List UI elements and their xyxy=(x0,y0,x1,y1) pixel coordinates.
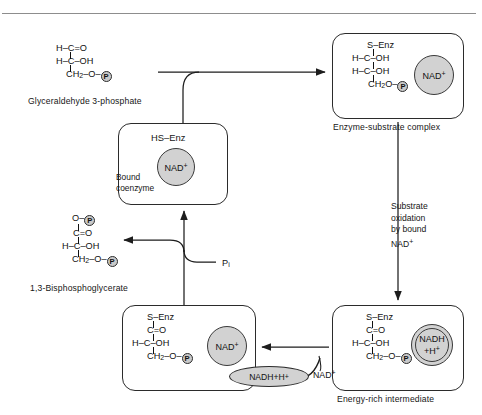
g3p-bond-2 xyxy=(70,65,71,72)
phosphate-icon: P xyxy=(401,353,412,364)
nadh-released-charge: + xyxy=(285,373,289,380)
esc-thioester-link: S–Enz xyxy=(367,40,394,50)
bpg-bond-3 xyxy=(78,250,79,257)
bpg-bond-1 xyxy=(78,224,79,231)
label-glyceraldehyde-3-phosphate: Glyceraldehyde 3-phosphate xyxy=(28,96,142,106)
esc-bond-3 xyxy=(373,75,374,82)
nad-free-label: NAD xyxy=(313,370,332,380)
nad-label: NAD xyxy=(215,342,234,352)
nad-free-charge: + xyxy=(332,369,336,376)
label-energy-rich-intermediate: Energy-rich intermediate xyxy=(337,394,434,404)
structure-1-3-bisphosphoglycerate: O–P C=O H–C–OH CH2–O–P xyxy=(62,214,118,270)
bpg-row-1: O–P xyxy=(62,214,118,229)
phosphate-icon: P xyxy=(107,256,118,267)
eri-row-4: CH2–O–P xyxy=(352,352,412,367)
structure-energy-rich-intermediate: S–Enz C=O H–C–OH CH2–O–P xyxy=(352,313,412,367)
substrate-oxidation-charge: + xyxy=(409,238,413,245)
incoming-nad-plus-label: NAD+ xyxy=(313,369,336,380)
eri-bond-2 xyxy=(372,334,373,341)
bpg-bond-2 xyxy=(78,237,79,244)
cofactor-nad-plus-complex: NAD+ xyxy=(414,55,454,95)
g3p-ch2: CH xyxy=(66,69,79,79)
eri-oxygen-link: –O– xyxy=(383,351,400,361)
bpg-oxygen: O– xyxy=(72,213,84,223)
cofactor-nad-plus-acyl: NAD+ xyxy=(207,326,247,366)
bpg-row-4: CH2–O–P xyxy=(62,255,118,270)
bpg-carboxyl: C=O xyxy=(73,228,92,238)
annotation-bound-coenzyme: Bound coenzyme xyxy=(116,172,154,194)
acyl-thioester-link: S–Enz xyxy=(147,312,174,322)
structure-enzyme-substrate-complex: S–Enz H–C–OH H–C–OH CH2O–P xyxy=(352,41,408,95)
acyl-bond-3 xyxy=(153,347,154,354)
nad-charge: + xyxy=(441,70,445,77)
nad-label: NAD xyxy=(422,71,441,81)
curve-pi-entry xyxy=(184,250,216,262)
phosphate-icon: P xyxy=(182,353,193,364)
label-hs-enz: HS–Enz xyxy=(151,132,185,144)
acyl-carbonyl: C=O xyxy=(147,325,166,335)
phosphate-icon: P xyxy=(101,71,112,82)
structure-acyl-enzyme: S–Enz C=O H–C–OH CH2–O–P xyxy=(132,313,193,367)
esc-oxygen-link: O– xyxy=(385,79,397,89)
acyl-bond-1 xyxy=(153,321,154,328)
label-enzyme-substrate-complex: Enzyme-substrate complex xyxy=(333,122,440,132)
nad-charge: + xyxy=(234,341,238,348)
g3p-bond-1 xyxy=(70,52,71,59)
esc-bond-2 xyxy=(373,62,374,69)
g3p-aldehyde: H–C=O xyxy=(56,43,87,53)
eri-bond-1 xyxy=(372,321,373,328)
nad-label: NAD xyxy=(164,163,183,173)
eri-thioester-link: S–Enz xyxy=(366,312,393,322)
phosphate-icon: P xyxy=(84,215,95,226)
nadh-proton: +H xyxy=(424,346,436,356)
bpg-oxygen-link: –O– xyxy=(89,254,106,264)
acyl-hydroxyl: H–C–OH xyxy=(132,338,169,348)
eri-hydroxyl: H–C–OH xyxy=(352,338,389,348)
label-1-3-bisphosphoglycerate: 1,3-Bisphosphoglycerate xyxy=(30,283,128,293)
esc-c2: H–C–OH xyxy=(352,66,389,76)
esc-bond-1 xyxy=(373,49,374,56)
g3p-oxygen-link: –O– xyxy=(83,69,100,79)
eri-bond-3 xyxy=(372,347,373,354)
structure-glyceraldehyde-3-phosphate: H–C=O H–C–OH CH2–O–P xyxy=(56,44,112,85)
eri-carbonyl: C=O xyxy=(366,325,385,335)
esc-ch2: CH xyxy=(368,79,381,89)
pi-subscript: i xyxy=(228,261,230,268)
acyl-row-4: CH2–O–P xyxy=(132,352,193,367)
released-nadh-ellipse: NADH+H+ xyxy=(229,366,309,387)
esc-row-4: CH2O–P xyxy=(352,80,408,95)
figure-canvas: H–C=O H–C–OH CH2–O–P Glyceraldehyde 3-ph… xyxy=(0,0,482,415)
arrow-to-bisphosphoglycerate xyxy=(124,240,184,252)
cofactor-nad-plus-bound: NAD+ xyxy=(157,148,195,186)
acyl-row-3: H–C–OH xyxy=(132,339,193,352)
nadh-label: NADH xyxy=(419,334,445,344)
nadh-released-label: NADH+H xyxy=(249,372,285,382)
acyl-oxygen-link: –O– xyxy=(164,351,181,361)
g3p-hydroxyl: H–C–OH xyxy=(56,56,93,66)
esc-c1: H–C–OH xyxy=(352,53,389,63)
annotation-substrate-oxidation: Substrate oxidation by bound NAD+ xyxy=(391,201,428,250)
acyl-bond-2 xyxy=(153,334,154,341)
label-inorganic-phosphate: Pi xyxy=(222,258,230,271)
phosphate-icon: P xyxy=(397,81,408,92)
arrow-enzyme-joins-substrate xyxy=(183,72,199,123)
bpg-hydroxyl: H–C–OH xyxy=(62,241,99,251)
eri-row-3: H–C–OH xyxy=(352,339,412,352)
nad-charge: + xyxy=(183,162,187,169)
nadh-charge: + xyxy=(436,345,440,352)
cofactor-nadh-bound: NADH+H+ xyxy=(411,324,453,366)
g3p-row-3: CH2–O–P xyxy=(56,70,112,85)
